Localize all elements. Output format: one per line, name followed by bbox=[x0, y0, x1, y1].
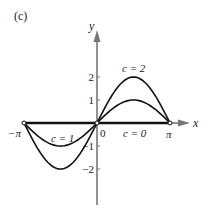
y-tick-label: 1 bbox=[89, 94, 95, 106]
y-axis-label: y bbox=[88, 19, 95, 33]
figure-panel: (c) y 21−1−2 x −π 0 π c = 2 c = 1 c = 0 bbox=[0, 0, 206, 216]
y-axis: y 21−1−2 bbox=[82, 19, 100, 205]
y-axis-arrow-icon bbox=[94, 30, 101, 42]
curve-label-c1: c = 1 bbox=[51, 132, 74, 144]
panel-label: (c) bbox=[14, 9, 27, 23]
curve-label-c0: c = 0 bbox=[123, 127, 147, 139]
y-tick-label: 2 bbox=[89, 71, 95, 83]
x-tick-zero: 0 bbox=[100, 127, 106, 139]
sine-family-plot: (c) y 21−1−2 x −π 0 π c = 2 c = 1 c = 0 bbox=[0, 0, 206, 216]
curve-label-c2: c = 2 bbox=[122, 62, 146, 74]
point-pi bbox=[168, 121, 172, 125]
x-tick-neg-pi: −π bbox=[8, 127, 21, 139]
y-tick-label: −2 bbox=[82, 163, 94, 175]
x-tick-pi: π bbox=[166, 128, 172, 140]
x-axis-label: x bbox=[192, 116, 199, 130]
point-neg-pi bbox=[22, 121, 26, 125]
point-origin bbox=[95, 121, 99, 125]
x-axis: x bbox=[170, 116, 199, 130]
x-axis-arrow-icon bbox=[178, 120, 190, 127]
